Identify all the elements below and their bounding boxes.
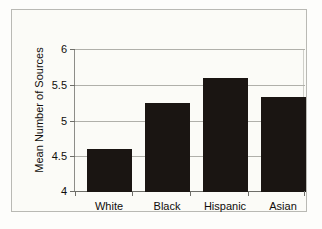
- bar-asian: [261, 97, 306, 192]
- chart-frame: Mean Number of Sources 6 5.5 5 4.5 4: [11, 9, 307, 212]
- ytick-label-6: 6: [27, 44, 67, 55]
- xtick-mark-2: [190, 191, 191, 196]
- ytick-label-4: 4: [27, 186, 67, 197]
- gridline-5_5: [75, 85, 305, 86]
- ytick-mark-6: [70, 49, 75, 50]
- bar-black: [145, 103, 190, 192]
- xtick-mark-1: [132, 191, 133, 196]
- gridline-6: [75, 49, 305, 50]
- ytick-label-5_5: 5.5: [27, 80, 67, 91]
- ytick-mark-5: [70, 121, 75, 122]
- plot-area: Mean Number of Sources 6 5.5 5 4.5 4: [74, 49, 304, 192]
- xtick-mark-4: [304, 191, 305, 196]
- ytick-label-4_5: 4.5: [27, 151, 67, 162]
- bar-hispanic: [203, 78, 248, 192]
- y-axis-title: Mean Number of Sources: [33, 10, 45, 210]
- xtick-mark-3: [248, 191, 249, 196]
- xtick-label-asian: Asian: [243, 200, 322, 212]
- bar-white: [87, 149, 132, 192]
- chart-figure: Mean Number of Sources 6 5.5 5 4.5 4: [0, 0, 322, 229]
- ytick-label-5: 5: [27, 116, 67, 127]
- xtick-mark-0: [75, 191, 76, 196]
- ytick-mark-5_5: [70, 85, 75, 86]
- ytick-mark-4_5: [70, 156, 75, 157]
